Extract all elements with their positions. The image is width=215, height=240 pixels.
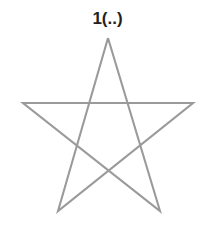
- pentagram-diagram: [0, 0, 215, 240]
- pentagram-outline: [23, 38, 193, 211]
- figure-container: 1(..): [0, 0, 215, 240]
